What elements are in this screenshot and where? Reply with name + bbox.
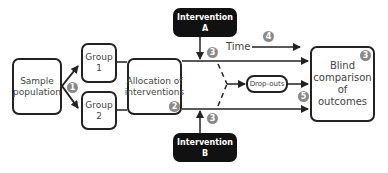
group2-label-2: 2: [96, 111, 102, 121]
badge-3-bottom: 3: [207, 113, 218, 124]
dropouts-node: Drop-outs: [246, 75, 288, 93]
intervention-b-label-2: B: [202, 148, 208, 159]
intervention-a-label-2: A: [202, 23, 208, 34]
dropout-dash-top: [218, 64, 227, 84]
group2-label-1: Group: [85, 100, 112, 110]
badge-4: 4: [263, 31, 274, 42]
intervention-b-node: Intervention B: [173, 133, 237, 162]
outcome-label-3: of: [338, 84, 348, 95]
group-2-node: Group2: [81, 91, 117, 130]
badge-3-outcome: 3: [360, 50, 371, 61]
intervention-a-node: Intervention A: [173, 8, 237, 37]
sample-population-node: Samplepopulation: [12, 58, 62, 115]
badge-2: 2: [169, 101, 180, 112]
dropout-dash-bottom: [218, 84, 227, 106]
allocation-label-2: interventions: [125, 87, 184, 97]
badge-3-top: 3: [207, 47, 218, 58]
intervention-b-label-1: Intervention: [177, 137, 233, 148]
badge-1: 1: [67, 82, 78, 93]
dropouts-label: Drop-outs: [250, 79, 285, 90]
outcome-label-4: outcomes: [318, 96, 367, 107]
sample-label-2: population: [13, 87, 61, 97]
intervention-a-label-1: Intervention: [177, 12, 233, 23]
badge-5: 5: [298, 91, 309, 102]
group1-label-1: Group: [85, 52, 112, 62]
group-1-node: Group1: [81, 43, 117, 83]
outcome-label-2: comparison: [313, 72, 371, 83]
allocation-label-1: Allocation of: [127, 76, 183, 86]
group1-label-2: 1: [96, 63, 102, 73]
sample-label-1: Sample: [20, 76, 54, 86]
time-label: Time: [226, 41, 250, 52]
outcome-label-1: Blind: [330, 60, 355, 71]
